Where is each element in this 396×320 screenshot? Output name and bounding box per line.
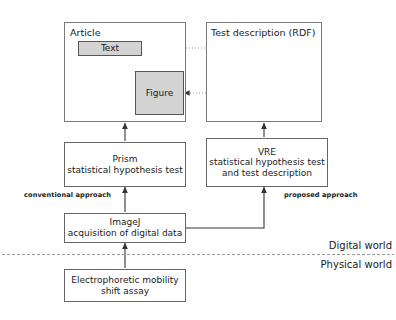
article-text-block: Text [78,41,142,56]
article-title: Article [70,28,100,38]
assay-box: Electrophoretic mobility shift assay [64,269,186,302]
diagram-canvas: Article Text Figure Test description (RD… [0,0,396,320]
physical-world-label: Physical world [246,259,392,270]
proposed-approach-label: proposed approach [284,191,358,199]
prism-box: Prism statistical hypothesis test [64,142,186,187]
conventional-approach-label: conventional approach [24,191,111,199]
article-figure-block: Figure [135,71,184,115]
rdf-title: Test description (RDF) [211,28,315,38]
vre-box: VRE statistical hypothesis test and test… [206,138,328,187]
diagram-vector-layer [0,0,396,320]
imagej-box: ImageJ acquisition of digital data [64,213,186,243]
digital-world-label: Digital world [246,240,392,251]
arrow-imagej-to-vre [186,187,264,228]
